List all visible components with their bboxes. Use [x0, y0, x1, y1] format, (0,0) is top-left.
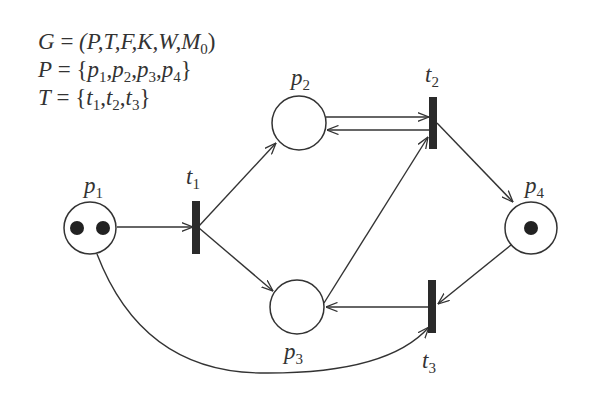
- transition-t1: t1: [186, 164, 200, 254]
- definition-p: P = {p1,p2,p3,p4}: [37, 57, 192, 85]
- definitions: G = (P,T,F,K,W,M0) P = {p1,p2,p3,p4} T =…: [37, 29, 216, 113]
- definition-g: G = (P,T,F,K,W,M0): [38, 29, 216, 57]
- transition-label: t3: [422, 348, 436, 376]
- place-label: p1: [82, 173, 103, 201]
- petri-net-diagram: G = (P,T,F,K,W,M0) P = {p1,p2,p3,p4} T =…: [0, 0, 595, 403]
- place-p3: p3: [270, 280, 324, 367]
- token: [96, 221, 110, 235]
- place-label: p2: [289, 65, 310, 93]
- token: [524, 221, 538, 235]
- transition-label: t1: [186, 164, 200, 192]
- place-label: p3: [282, 339, 303, 367]
- place-label: p4: [523, 173, 545, 201]
- place-circle: [272, 96, 326, 150]
- place-p1: p1: [64, 173, 116, 254]
- arc-p3-t2: [324, 137, 428, 303]
- transition-t2: t2: [425, 62, 439, 149]
- place-circle: [270, 280, 324, 334]
- place-p4: p4: [505, 173, 557, 254]
- arc-t1-p3: [199, 228, 273, 291]
- transition-bar: [429, 97, 437, 149]
- arc-p4-t3: [438, 245, 511, 304]
- definition-t: T = {t1,t2,t3}: [38, 85, 151, 113]
- arc-t1-p2: [199, 143, 276, 226]
- arc-p1-t3: [97, 254, 429, 373]
- transition-bar: [192, 201, 200, 254]
- transition-label: t2: [425, 62, 439, 90]
- transition-bar: [428, 280, 436, 333]
- token: [70, 221, 84, 235]
- transition-t3: t3: [422, 280, 436, 376]
- arcs: [97, 117, 513, 373]
- arc-t2-p4: [437, 123, 513, 202]
- place-p2: p2: [272, 65, 326, 150]
